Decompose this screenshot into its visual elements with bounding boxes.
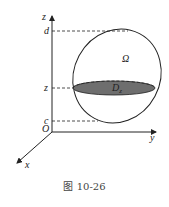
diagram-canvas: z d z c O y x Ω Dz xyxy=(0,0,169,207)
origin-label: O xyxy=(42,123,49,134)
region-omega-label: Ω xyxy=(122,53,129,64)
z-level-label: z xyxy=(43,82,48,93)
cross-section-subscript: z xyxy=(118,87,122,95)
figure-caption: 图 10-26 xyxy=(0,178,169,193)
d-label: d xyxy=(44,25,50,36)
y-axis-label: y xyxy=(149,132,155,143)
region-omega-boundary xyxy=(56,13,169,138)
z-axis-label: z xyxy=(41,11,46,22)
x-axis xyxy=(17,132,52,163)
x-axis-label: x xyxy=(24,159,30,170)
